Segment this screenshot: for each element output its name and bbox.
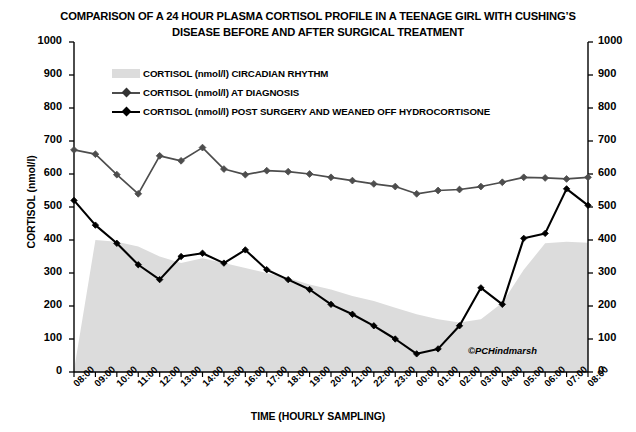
data-point-marker-at-diagnosis [392, 183, 399, 190]
legend-item-post-surgery: CORTISOL (nmol/l) POST SURGERY AND WEANE… [112, 102, 490, 121]
data-point-marker-at-diagnosis [435, 187, 442, 194]
y-tick-label-left: 700 [22, 133, 62, 145]
data-point-marker-post-surgery [199, 250, 205, 256]
y-tick-label-right: 800 [598, 100, 636, 112]
y-tick-label-right: 400 [598, 232, 636, 244]
data-point-marker-at-diagnosis [520, 174, 527, 181]
y-tick-label-left: 100 [22, 331, 62, 343]
data-point-marker-at-diagnosis [263, 167, 270, 174]
y-tick-label-right: 200 [598, 298, 636, 310]
legend-label-at-diagnosis: CORTISOL (nmol/l) AT DIAGNOSIS [143, 87, 299, 98]
legend-item-circadian: CORTISOL (nmol/l) CIRCADIAN RHYTHM [112, 64, 490, 83]
data-point-marker-at-diagnosis [478, 183, 485, 190]
data-point-marker-at-diagnosis [156, 152, 163, 159]
chart-root: COMPARISON OF A 24 HOUR PLASMA CORTISOL … [0, 0, 636, 432]
data-point-marker-at-diagnosis [563, 176, 570, 183]
y-tick-label-left: 300 [22, 265, 62, 277]
data-point-marker-at-diagnosis [349, 177, 356, 184]
data-point-marker-post-surgery [521, 235, 527, 241]
copyright-annotation: ©PCHindmarsh [468, 345, 537, 356]
y-tick-label-left: 400 [22, 232, 62, 244]
y-tick-label-right: 600 [598, 166, 636, 178]
data-point-marker-at-diagnosis [306, 171, 313, 178]
y-tick-label-right: 100 [598, 331, 636, 343]
legend-swatch-band-icon [112, 69, 140, 78]
y-tick-label-right: 700 [598, 133, 636, 145]
data-point-marker-at-diagnosis [499, 179, 506, 186]
data-point-marker-at-diagnosis [71, 147, 78, 154]
y-tick-label-left: 1000 [22, 34, 62, 46]
data-point-marker-at-diagnosis [542, 175, 549, 182]
y-tick-label-right: 500 [598, 199, 636, 211]
data-point-marker-at-diagnosis [328, 174, 335, 181]
y-tick-label-left: 600 [22, 166, 62, 178]
legend-label-post-surgery: CORTISOL (nmol/l) POST SURGERY AND WEANE… [143, 106, 490, 117]
y-tick-label-left: 800 [22, 100, 62, 112]
y-tick-label-left: 500 [22, 199, 62, 211]
data-point-marker-at-diagnosis [370, 181, 377, 188]
y-tick-label-right: 1000 [598, 34, 636, 46]
data-point-marker-at-diagnosis [456, 186, 463, 193]
y-tick-label-left: 200 [22, 298, 62, 310]
legend-swatch-line-diamond-black-icon [112, 106, 140, 117]
y-tick-label-left: 0 [22, 364, 62, 376]
y-tick-label-left: 900 [22, 67, 62, 79]
chart-legend: CORTISOL (nmol/l) CIRCADIAN RHYTHM CORTI… [112, 64, 490, 121]
legend-item-at-diagnosis: CORTISOL (nmol/l) AT DIAGNOSIS [112, 83, 490, 102]
data-point-marker-at-diagnosis [285, 168, 292, 175]
data-point-marker-at-diagnosis [585, 174, 592, 181]
legend-swatch-line-diamond-grey-icon [112, 87, 140, 98]
y-tick-label-right: 300 [598, 265, 636, 277]
y-tick-label-right: 900 [598, 67, 636, 79]
series-line-at-diagnosis [74, 148, 588, 194]
legend-label-circadian: CORTISOL (nmol/l) CIRCADIAN RHYTHM [143, 68, 328, 79]
data-point-marker-at-diagnosis [242, 171, 249, 178]
data-point-marker-at-diagnosis [413, 190, 420, 197]
